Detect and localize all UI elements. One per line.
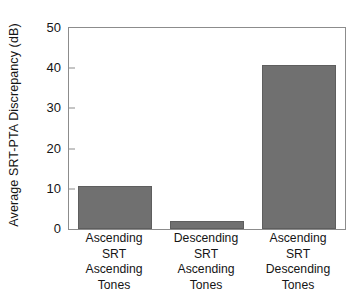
- x-axis-category-labels: AscendingSRTAscendingTonesDescendingSRTA…: [68, 231, 344, 307]
- x-axis-category-line: Descending: [252, 262, 344, 278]
- bar-chart-figure: Average SRT-PTA Discrepancy (dB) 0102030…: [0, 0, 359, 307]
- x-axis-category-label: AscendingSRTDescendingTones: [252, 231, 344, 293]
- x-axis-category-line: Ascending: [252, 231, 344, 247]
- y-axis-tick-mark: [69, 148, 75, 149]
- y-axis-tick-label: 30: [47, 100, 61, 115]
- x-axis-category-line: Descending: [160, 231, 252, 247]
- y-axis-title: Average SRT-PTA Discrepancy (dB): [7, 23, 21, 226]
- x-axis-category-label: AscendingSRTAscendingTones: [68, 231, 160, 293]
- y-axis-tick-labels: 01020304050: [28, 0, 65, 307]
- y-axis-tick-mark: [69, 68, 75, 69]
- bar: [262, 65, 336, 229]
- x-axis-category-line: SRT: [68, 247, 160, 263]
- y-axis-title-container: Average SRT-PTA Discrepancy (dB): [0, 0, 28, 250]
- y-axis-tick-label: 40: [47, 60, 61, 75]
- y-axis-tick-mark: [69, 188, 75, 189]
- plot-inner: [69, 28, 345, 229]
- bar: [170, 221, 244, 229]
- x-axis-category-line: Ascending: [68, 262, 160, 278]
- bar: [78, 186, 152, 229]
- x-axis-category-line: SRT: [160, 247, 252, 263]
- x-axis-category-line: SRT: [252, 247, 344, 263]
- x-axis-category-line: Tones: [252, 278, 344, 294]
- y-axis-tick-label: 20: [47, 140, 61, 155]
- x-axis-category-line: Tones: [160, 278, 252, 294]
- plot-area: [68, 27, 346, 230]
- y-axis-tick-label: 10: [47, 180, 61, 195]
- y-axis-tick-label: 50: [47, 20, 61, 35]
- y-axis-tick-label: 0: [54, 221, 61, 236]
- x-axis-category-line: Ascending: [160, 262, 252, 278]
- x-axis-category-line: Ascending: [68, 231, 160, 247]
- y-axis-tick-mark: [69, 108, 75, 109]
- x-axis-category-label: DescendingSRTAscendingTones: [160, 231, 252, 293]
- x-axis-category-line: Tones: [68, 278, 160, 294]
